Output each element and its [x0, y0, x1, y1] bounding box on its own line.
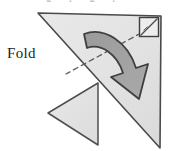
folded-flap-triangle [48, 83, 98, 145]
fold-label: Fold [7, 44, 36, 63]
fold-diagram-figure: g l g r [0, 0, 169, 151]
right-angle-marker [140, 18, 159, 37]
fold-diagram-canvas [0, 0, 169, 151]
